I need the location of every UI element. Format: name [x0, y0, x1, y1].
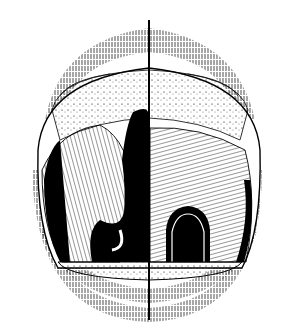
uvula-arch — [166, 206, 210, 262]
palate-illustration — [0, 0, 293, 334]
